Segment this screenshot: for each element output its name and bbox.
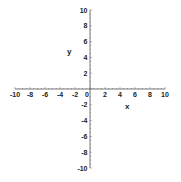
y-tick-label: -6 bbox=[81, 133, 87, 140]
x-tick-label: 2 bbox=[103, 91, 107, 98]
y-tick-label: 2 bbox=[84, 70, 88, 77]
x-tick-label: -6 bbox=[42, 91, 48, 98]
origin-label: 0 bbox=[85, 91, 89, 98]
x-tick-label: 6 bbox=[133, 91, 137, 98]
y-tick-label: 4 bbox=[84, 54, 88, 61]
x-tick-label: 10 bbox=[161, 91, 169, 98]
y-tick-label: -10 bbox=[77, 165, 87, 172]
y-axis bbox=[90, 10, 92, 168]
x-tick-label: -10 bbox=[10, 91, 20, 98]
x-tick-label: -4 bbox=[57, 91, 63, 98]
y-tick-label: -4 bbox=[81, 117, 87, 124]
y-tick-label: -2 bbox=[81, 101, 87, 108]
x-tick-label: 4 bbox=[118, 91, 122, 98]
y-tick-label: 6 bbox=[84, 38, 88, 45]
coordinate-plane: -10-8-6-4-2246810 108642-2-4-6-8-10 0 y … bbox=[0, 0, 181, 182]
x-tick-label: -2 bbox=[72, 91, 78, 98]
x-tick-label: -8 bbox=[27, 91, 33, 98]
y-tick-label: 10 bbox=[80, 7, 88, 14]
x-tick-label: 8 bbox=[148, 91, 152, 98]
x-axis-ticks: -10-8-6-4-2246810 bbox=[10, 91, 169, 98]
y-tick-label: 8 bbox=[84, 22, 88, 29]
y-tick-label: -8 bbox=[81, 149, 87, 156]
y-axis-label: y bbox=[67, 47, 72, 56]
x-axis-label: x bbox=[125, 102, 130, 111]
